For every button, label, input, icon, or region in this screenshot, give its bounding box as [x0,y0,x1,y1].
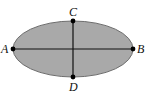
label-d: D [68,80,78,94]
point-a [11,47,16,52]
point-c [71,19,76,24]
ellipse-diagram: A B C D [0,0,145,97]
label-c: C [69,5,78,19]
label-b: B [137,42,145,56]
point-b [131,47,136,52]
label-a: A [0,42,9,56]
point-d [71,75,76,80]
